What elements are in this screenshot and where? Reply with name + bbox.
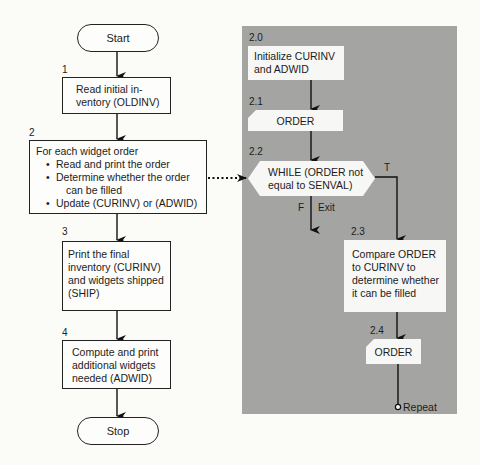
step-2-4-label: ORDER [375,346,413,358]
flowchart: Start 1 Read initial in- ventory (OLDINV… [0,0,480,465]
step-2-heading: For each widget order [36,145,206,158]
start-terminator: Start [77,24,159,52]
step-4-line-3: needed (ADWID) [72,372,170,385]
step-4-line-2: additional widgets [72,359,170,372]
step-2-bullet-list: Read and print the order Determine wheth… [36,158,206,210]
step-2-bullet-2-text: Determine whether the order [56,171,206,184]
step-2-0-line-2: and ADWID [254,63,344,76]
step-3-number: 3 [62,226,68,237]
repeat-label: Repeat [403,401,437,413]
step-3-line-1: Print the final [68,248,170,261]
step-2-bullet-1-text: Read and print the order [56,158,170,170]
step-2-3-box: Compare ORDER to CURINV to determine whe… [344,240,446,312]
step-3-line-3: and widgets shipped [68,274,170,287]
stop-terminator: Stop [77,417,159,445]
step-2-bullet-3-text: Update (CURINV) or (ADWID) [56,197,197,209]
step-2-number: 2 [29,127,35,138]
start-label: Start [106,32,129,45]
step-4-box: Compute and print additional widgets nee… [62,340,171,389]
step-4-line-1: Compute and print [72,346,170,359]
step-2-2-number: 2.2 [249,146,263,157]
true-branch-label: T [384,162,390,173]
step-1-box: Read initial in- ventory (OLDINV) [62,77,171,114]
step-3-box: Print the final inventory (CURINV) and w… [62,241,171,311]
step-2-3-line-2: to CURINV to [352,261,446,274]
step-1-number: 1 [62,64,68,75]
step-2-bullet-2-continuation: can be filled [56,184,206,197]
step-2-2-line-1: WHILE (ORDER not [268,166,363,179]
step-2-2-line-2: equal to SENVAL) [268,179,363,192]
step-2-2-while-decision: WHILE (ORDER not equal to SENVAL) [248,161,375,196]
step-2-3-line-4: it can be filled [352,287,446,300]
step-2-0-number: 2.0 [249,32,263,43]
step-2-3-number: 2.3 [351,226,365,237]
step-3-line-2: inventory (CURINV) [68,261,170,274]
step-4-number: 4 [62,327,68,338]
step-2-4-number: 2.4 [370,325,384,336]
step-2-1-label: ORDER [277,115,315,127]
step-2-4-output-card: ORDER [366,339,421,364]
step-1-line-2: ventory (OLDINV) [76,96,170,109]
step-2-0-line-1: Initialize CURINV [254,50,344,63]
step-2-box: For each widget order Read and print the… [29,140,207,214]
step-1-line-1: Read initial in- [76,83,170,96]
step-2-bullet-3: Update (CURINV) or (ADWID) [44,197,206,210]
step-3-line-4: (SHIP) [68,287,170,300]
step-2-1-number: 2.1 [249,96,263,107]
stop-label: Stop [107,425,130,438]
step-2-bullet-1: Read and print the order [44,158,206,171]
step-2-bullet-2: Determine whether the order can be fille… [44,171,206,197]
step-2-1-input-card: ORDER [248,110,343,131]
false-branch-label: F [298,202,304,213]
step-2-3-line-3: determine whether [352,274,446,287]
step-2-0-box: Initialize CURINV and ADWID [248,46,344,80]
connector-lines [0,0,480,465]
step-2-3-line-1: Compare ORDER [352,248,446,261]
exit-label: Exit [318,202,335,213]
